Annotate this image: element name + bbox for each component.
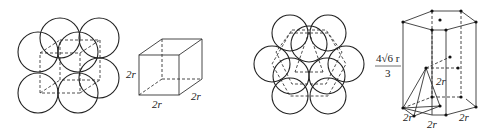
base-left-label: 2r xyxy=(403,111,414,123)
cube-width-label: 2r xyxy=(152,98,163,110)
base-mid-label: 2r xyxy=(427,118,438,130)
simple-cubic-cell xyxy=(139,39,202,95)
hexagonal-close-packing xyxy=(254,15,364,114)
tetra-edge-label: 2r xyxy=(436,75,447,87)
simple-cubic-packing xyxy=(18,18,119,113)
cube-depth-label: 2r xyxy=(191,90,202,102)
lattice-points xyxy=(401,9,477,117)
prism-height-denominator: 3 xyxy=(385,67,391,79)
cube-height-label: 2r xyxy=(126,68,137,80)
base-right-label: 2r xyxy=(459,111,470,123)
prism-height-numerator: 4√6 r xyxy=(376,52,400,64)
crystal-diagram: 2r 2r 2r xyxy=(0,0,490,133)
hexagonal-prism-cell xyxy=(403,11,476,116)
